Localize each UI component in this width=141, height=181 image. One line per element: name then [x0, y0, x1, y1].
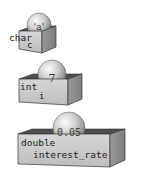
- variable-box-int: 7 int i: [19, 60, 82, 105]
- variable-box-char: 'a' char c: [9, 13, 56, 53]
- variables-diagram: 'a' char c 7 int i 0.05 double interest_…: [0, 0, 141, 181]
- name-label: i: [39, 91, 44, 101]
- value-label: 0.05: [57, 127, 81, 138]
- type-label: double: [21, 137, 56, 148]
- value-label: 'a': [34, 22, 44, 32]
- name-label: c: [27, 40, 32, 50]
- type-label: int: [20, 81, 37, 92]
- name-label: interest_rate: [33, 149, 108, 160]
- box-side: [68, 74, 82, 105]
- box-side: [110, 129, 125, 167]
- value-label: 7: [49, 72, 56, 85]
- variable-box-double: 0.05 double interest_rate: [18, 112, 125, 167]
